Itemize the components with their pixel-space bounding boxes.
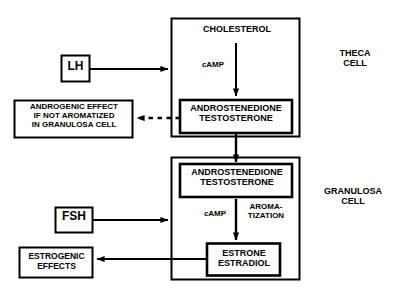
label-granulosa-androgens: ANDROSTENEDIONE TESTOSTERONE <box>181 167 293 187</box>
label-camp-granulosa: cAMP <box>196 210 234 219</box>
label-androgenic-effect: ANDROGENIC EFFECT IF NOT AROMATIZED IN G… <box>16 103 132 130</box>
diagram-canvas: CHOLESTEROL cAMP ANDROSTENEDIONE TESTOST… <box>0 0 402 296</box>
label-fsh: FSH <box>56 210 92 223</box>
label-camp-theca: cAMP <box>193 61 233 70</box>
label-granulosa-cell: GRANULOSA CELL <box>313 186 393 206</box>
label-estrogenic-effects: ESTROGENIC EFFECTS <box>21 252 92 271</box>
label-lh: LH <box>62 60 89 73</box>
label-aromatization: AROMA- TIZATION <box>243 203 289 221</box>
label-theca-androgens: ANDROSTENEDIONE TESTOSTERONE <box>180 103 292 123</box>
label-theca-cell: THECA CELL <box>316 48 394 68</box>
label-cholesterol: CHOLESTEROL <box>177 24 297 34</box>
label-estrone-estradiol: ESTRONE ESTRADIOL <box>208 248 280 268</box>
